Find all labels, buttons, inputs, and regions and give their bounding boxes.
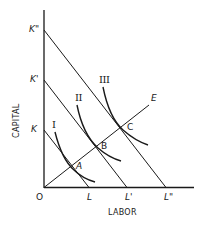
isoquant-diagram: K" K' K O L L' L" LABOR CAPITAL I II III… <box>0 0 206 225</box>
x-intercept-label-l2: L" <box>164 193 173 202</box>
point-label-b: B <box>101 142 107 151</box>
x-intercept-label-l: L <box>87 193 92 202</box>
isoquant-label-ii: II <box>75 93 82 103</box>
isoquant-label-i: I <box>52 120 55 130</box>
origin-label: O <box>36 193 43 202</box>
x-axis-title: LABOR <box>108 209 137 217</box>
y-intercept-label-k1: K' <box>30 75 38 84</box>
isoquant-curve-ii <box>77 105 121 161</box>
expansion-path-label: E <box>151 94 157 103</box>
point-label-a: A <box>76 162 82 171</box>
y-intercept-label-k2: K" <box>29 25 39 34</box>
point-label-c: C <box>127 123 133 132</box>
y-intercept-label-k: K <box>31 125 37 134</box>
y-axis-title: CAPITAL <box>13 103 21 138</box>
isocost-line-k-l <box>44 130 89 188</box>
x-intercept-label-l1: L' <box>125 193 133 202</box>
isocost-line-k2-l2 <box>44 30 166 188</box>
isoquant-label-iii: III <box>99 75 109 85</box>
isocost-line-k1-l1 <box>44 80 127 188</box>
